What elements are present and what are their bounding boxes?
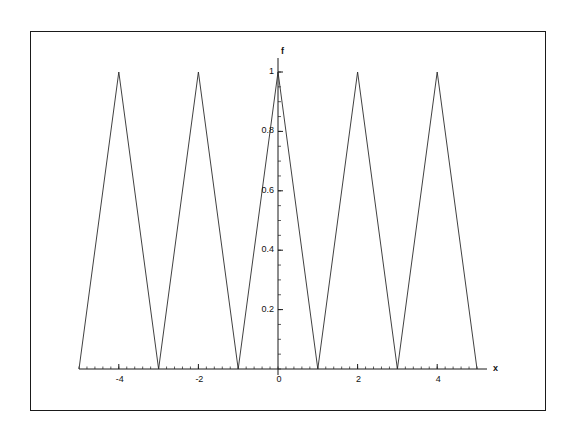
y-tick-label: 0.8	[250, 125, 274, 135]
y-tick-label: 1	[250, 66, 274, 76]
x-axis-label: x	[493, 363, 498, 373]
x-tick-label: -2	[192, 374, 206, 384]
x-tick-label: -4	[113, 374, 127, 384]
x-tick-label: 2	[352, 374, 366, 384]
y-axis-label: f	[281, 46, 284, 56]
y-tick-label: 0.6	[250, 185, 274, 195]
y-tick-label: 0.2	[250, 304, 274, 314]
chart-page: x f -4-2024 0.20.40.60.81	[0, 0, 572, 431]
plot-svg	[0, 0, 572, 431]
x-tick-label: 0	[272, 374, 286, 384]
plot-area	[0, 0, 572, 431]
y-tick-label: 0.4	[250, 244, 274, 254]
x-tick-label: 4	[431, 374, 445, 384]
y-axis-major-ticks	[278, 72, 283, 310]
